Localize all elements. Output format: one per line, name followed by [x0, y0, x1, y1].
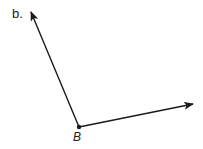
part-label: b.	[12, 7, 23, 20]
ray-left	[31, 12, 79, 127]
vertex-label: B	[73, 131, 81, 143]
ray-right	[79, 104, 193, 127]
vertex-point	[77, 125, 81, 129]
angle-svg	[0, 0, 203, 149]
angle-diagram: b. B	[0, 0, 203, 149]
